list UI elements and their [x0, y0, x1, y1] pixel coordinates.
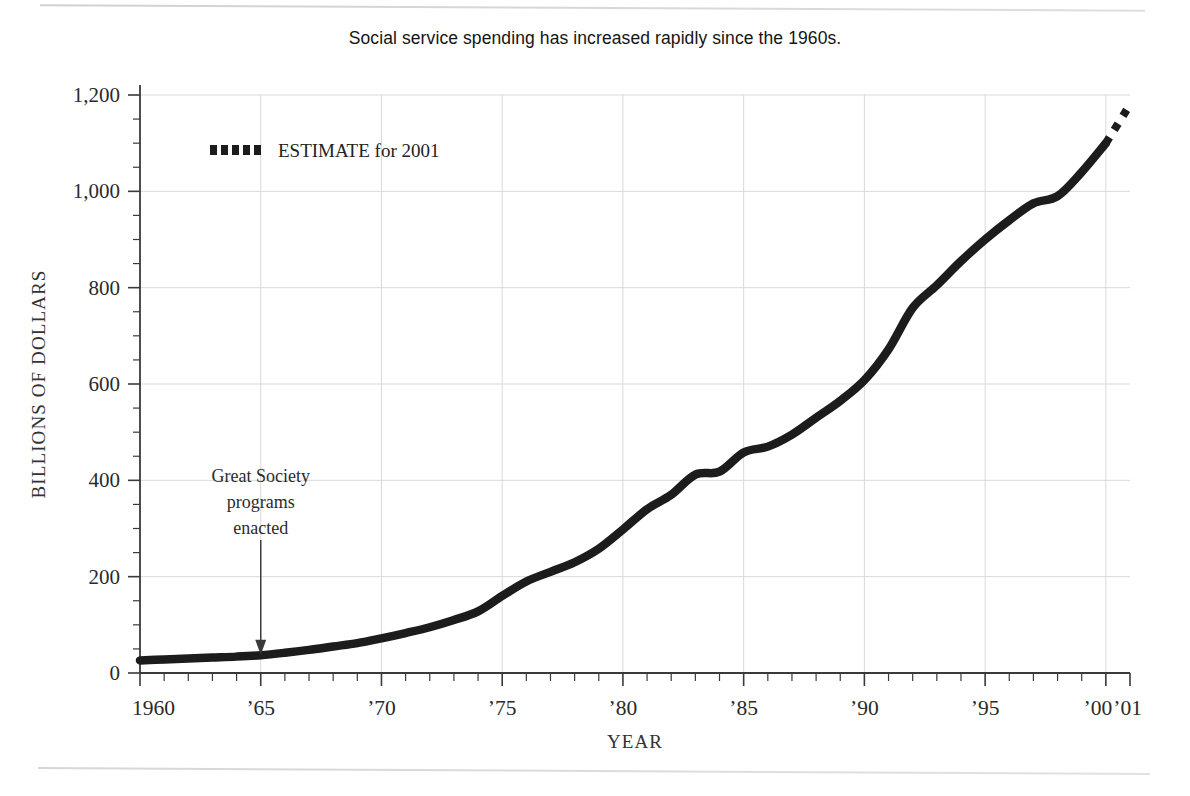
x-axis-title: YEAR — [607, 731, 663, 752]
legend-dot-marker — [232, 145, 239, 155]
x-tick-label: ’95 — [971, 696, 1000, 720]
gridlines — [140, 95, 1130, 673]
y-axis-title: BILLIONS OF DOLLARS — [28, 270, 49, 499]
annotation-label: programs — [227, 492, 295, 512]
x-tick-label: ’70 — [367, 696, 396, 720]
x-tick-label: ’00 — [1084, 696, 1113, 720]
x-tick-label: ’01 — [1113, 696, 1142, 720]
x-axis-ticks — [140, 673, 1130, 686]
legend-dot-marker — [254, 145, 261, 155]
y-axis-ticks — [128, 95, 140, 673]
x-tick-label: 1960 — [132, 696, 175, 720]
x-tick-label: ’80 — [609, 696, 638, 720]
series-line-estimate — [1106, 105, 1130, 144]
annotation-label: Great Society — [211, 466, 309, 486]
line-chart: 02004006008001,0001,200 1960’65’70’75’80… — [0, 0, 1190, 796]
x-tick-label: ’65 — [246, 696, 275, 720]
axis-lines — [140, 85, 1130, 673]
y-tick-label: 400 — [89, 468, 121, 492]
x-tick-label: ’75 — [488, 696, 517, 720]
legend: ESTIMATE for 2001 — [210, 140, 439, 161]
x-tick-label: ’90 — [850, 696, 879, 720]
y-tick-label: 1,000 — [73, 179, 120, 203]
legend-dot-marker — [221, 145, 228, 155]
figure-container: Social service spending has increased ra… — [0, 0, 1190, 796]
x-axis-tick-labels: 1960’65’70’75’80’85’90’95’00’01 — [132, 696, 1142, 720]
y-tick-label: 0 — [110, 661, 121, 685]
y-tick-label: 600 — [89, 372, 121, 396]
y-tick-label: 1,200 — [73, 83, 120, 107]
x-tick-label: ’85 — [729, 696, 758, 720]
y-axis-tick-labels: 02004006008001,0001,200 — [73, 83, 120, 685]
annotation-group: Great Societyprogramsenacted — [211, 466, 309, 655]
y-tick-label: 200 — [89, 565, 121, 589]
legend-dot-marker — [243, 145, 250, 155]
y-tick-label: 800 — [89, 276, 121, 300]
legend-dot-marker — [210, 145, 217, 155]
legend-label: ESTIMATE for 2001 — [278, 140, 439, 161]
annotation-label: enacted — [233, 518, 288, 538]
